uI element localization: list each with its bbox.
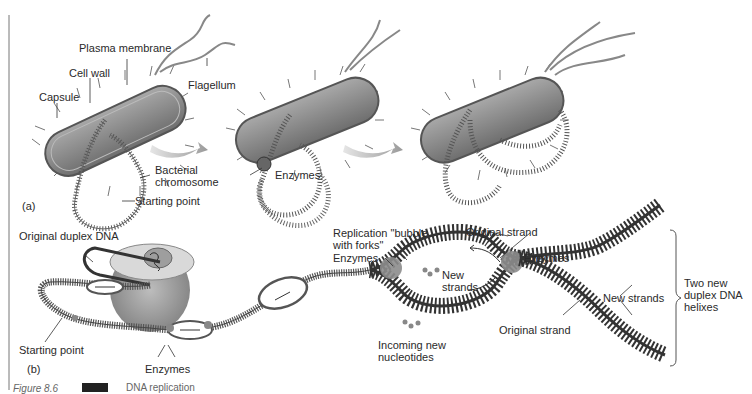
- label-two-new-helixes: Two new duplex DNA helixes: [684, 277, 743, 313]
- label-starting-point-b: Starting point: [19, 344, 84, 356]
- dna-strand-long: [41, 270, 370, 339]
- label-bacterial-chromosome: Bacterial chromosome: [155, 164, 219, 188]
- label-original-strand-top: Original strand: [466, 226, 538, 238]
- label-enzymes-left: Enzymes: [333, 252, 378, 264]
- figure-number: Figure 8.6: [13, 383, 58, 394]
- enzyme-icon: [257, 157, 271, 171]
- label-enzymes-bottom: Enzymes: [145, 363, 190, 375]
- label-plasma-membrane: Plasma membrane: [79, 42, 171, 54]
- label-replication-bubble: Replication "bubble with forks": [333, 227, 427, 251]
- figure-title: DNA replication: [126, 382, 195, 393]
- label-incoming-nucleotides: Incoming new nucleotides: [378, 339, 446, 363]
- label-capsule: Capsule: [39, 91, 79, 103]
- arrow-icon: [343, 142, 403, 158]
- panel-b-label: (b): [27, 363, 40, 375]
- label-cell-wall: Cell wall: [69, 67, 110, 79]
- label-new-strands-right: New strands: [603, 292, 664, 304]
- label-original-strand-bottom: Original strand: [499, 324, 571, 336]
- label-starting-point-a: Starting point: [135, 195, 200, 207]
- bacterium-3: [411, 22, 635, 203]
- label-original-duplex-dna: Original duplex DNA: [19, 230, 119, 242]
- label-enzymes-a: Enzymes: [275, 169, 320, 181]
- arrow-icon: [150, 142, 208, 158]
- label-enzymes-right: Enzymes: [524, 252, 569, 264]
- label-new-strands-inner: New strands: [442, 269, 478, 293]
- bacterium-2: [226, 20, 400, 226]
- enzyme-left-icon: [380, 257, 402, 279]
- panel-a-label: (a): [22, 200, 35, 212]
- caption-badge: [82, 383, 108, 392]
- bracket: [670, 230, 681, 366]
- label-flagellum: Flagellum: [188, 79, 236, 91]
